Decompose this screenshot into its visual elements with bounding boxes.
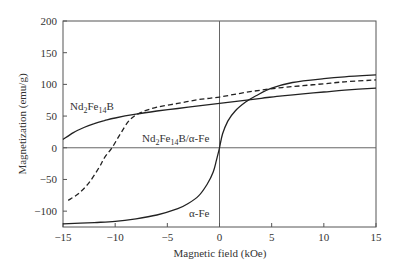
y-tick-label: −100 xyxy=(34,205,57,217)
label-nd2fe14b-alpha-fe: Nd2Fe14B/α-Fe xyxy=(142,132,209,147)
x-tick-label: 15 xyxy=(371,231,383,243)
x-tick-label: −10 xyxy=(107,231,125,243)
y-tick-label: 150 xyxy=(41,47,58,59)
y-tick-label: 200 xyxy=(41,15,58,27)
x-axis-label: Magnetic field (kOe) xyxy=(174,247,267,260)
label-alpha-fe: α-Fe xyxy=(189,207,210,219)
y-tick-label: 100 xyxy=(41,78,58,90)
x-tick-label: 0 xyxy=(217,231,223,243)
y-tick-label: 0 xyxy=(52,142,58,154)
y-axis-ticks: −100−50050100150200 xyxy=(34,15,67,217)
x-tick-label: −15 xyxy=(54,231,72,243)
y-tick-label: 50 xyxy=(46,110,58,122)
label-nd2fe14b: Nd2Fe14B xyxy=(70,100,114,115)
y-tick-label: −50 xyxy=(40,173,58,185)
x-tick-label: 5 xyxy=(269,231,275,243)
magnetization-chart: −15−10−5051015 −100−50050100150200 Magne… xyxy=(0,0,401,271)
y-axis-label: Magnetization (emu/g) xyxy=(16,73,29,174)
x-tick-label: −5 xyxy=(161,231,173,243)
x-tick-label: 10 xyxy=(318,231,330,243)
nd2fe14b-alpha-fe-curve xyxy=(68,80,376,200)
x-axis-ticks: −15−10−5051015 xyxy=(54,223,382,243)
